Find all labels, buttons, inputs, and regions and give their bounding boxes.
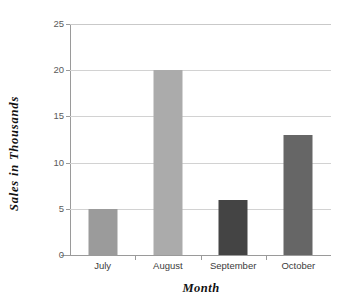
y-axis-title: Sales in Thousands: [0, 0, 28, 307]
x-tick-label: August: [135, 260, 200, 271]
bar[interactable]: [153, 70, 182, 255]
x-tick-label: October: [266, 260, 331, 271]
bar-slot: [266, 24, 331, 255]
x-axis-baseline: [61, 255, 331, 256]
bar-slot: [135, 24, 200, 255]
bars-group: [70, 24, 331, 255]
bar[interactable]: [219, 200, 248, 255]
bar[interactable]: [284, 135, 313, 255]
y-tick-label-10: 10: [36, 157, 64, 168]
bar-slot: [201, 24, 266, 255]
y-tick-label-15: 15: [36, 110, 64, 121]
bar[interactable]: [88, 209, 117, 255]
y-tick-mark-0: [66, 255, 70, 256]
y-tick-label-0: 0: [36, 249, 64, 260]
y-tick-label-25: 25: [36, 18, 64, 29]
x-tick-label: July: [70, 260, 135, 271]
plot-area: [70, 24, 331, 255]
bar-chart: Sales in Thousands 0510152025 JulyAugust…: [0, 0, 342, 307]
y-tick-label-20: 20: [36, 64, 64, 75]
bar-slot: [70, 24, 135, 255]
x-axis-title: Month: [70, 281, 332, 296]
y-tick-label-5: 5: [36, 203, 64, 214]
x-tick-label: September: [201, 260, 266, 271]
